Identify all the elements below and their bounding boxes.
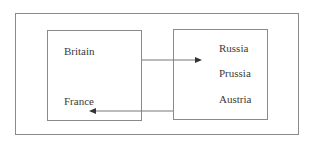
edges-layer [0, 0, 314, 143]
arrowhead-right-icon [195, 57, 202, 63]
arrow-left-to-right [142, 57, 202, 63]
arrow-right-to-france [89, 108, 173, 114]
arrowhead-left-icon [89, 108, 96, 114]
